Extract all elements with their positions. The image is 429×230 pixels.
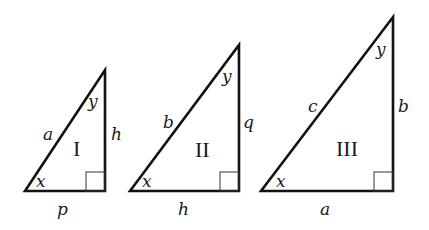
triangle-III-outline [261, 17, 393, 191]
side-hypotenuse-label: a [43, 124, 53, 144]
side-vertical-label: h [111, 124, 122, 144]
angle-y-label: y [375, 39, 386, 59]
angle-y-label: y [87, 91, 98, 111]
right-angle-marker [220, 172, 239, 191]
angle-x-label: x [36, 171, 46, 191]
triangle-I: x y a h p I [25, 70, 122, 219]
angle-y-label: y [221, 66, 232, 86]
side-hypotenuse-label: b [163, 112, 174, 132]
triangle-numeral: I [73, 136, 80, 161]
triangle-III: x y c b a III [261, 17, 409, 219]
triangle-numeral: II [195, 137, 210, 162]
right-angle-marker [374, 172, 393, 191]
side-base-label: a [320, 199, 330, 219]
side-hypotenuse-label: c [308, 96, 318, 116]
side-base-label: p [57, 199, 68, 219]
angle-x-label: x [276, 171, 286, 191]
similar-triangles-diagram: x y a h p I x y b q h II x y c b a III [0, 0, 429, 230]
right-angle-marker [86, 172, 105, 191]
triangle-II: x y b q h II [130, 45, 254, 219]
side-base-label: h [178, 199, 189, 219]
side-vertical-label: b [398, 96, 409, 116]
angle-x-label: x [142, 171, 152, 191]
triangle-numeral: III [336, 136, 358, 161]
side-vertical-label: q [243, 112, 254, 132]
